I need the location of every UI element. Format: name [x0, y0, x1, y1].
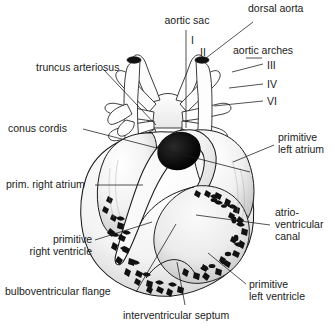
label-arch-2: II [200, 46, 206, 58]
aortic-arch-lumen-left [127, 57, 141, 63]
leader-arch-4 [229, 84, 263, 88]
label-atrioventricular-canal-line3: canal [275, 231, 300, 243]
label-primitive-right-ventricle-line2: right ventricle [8, 246, 92, 258]
label-primitive-left-ventricle-line1: primitive [249, 279, 288, 291]
label-primitive-left-atrium-line1: primitive [278, 132, 317, 144]
label-truncus-arteriosus: truncus arteriosus [36, 62, 119, 74]
label-atrioventricular-canal-line1: atrio- [275, 207, 299, 219]
label-primitive-left-ventricle-line2: left ventricle [249, 291, 305, 303]
heart-body [81, 126, 254, 297]
label-atrioventricular-canal-line2: ventricular [275, 219, 323, 231]
label-primitive-left-atrium-line2: left atrium [278, 144, 324, 156]
label-interventricular-septum: interventricular septum [123, 310, 229, 322]
label-arch-4: IV [267, 78, 277, 90]
label-aortic-arches: aortic arches [233, 45, 293, 57]
label-dorsal-aorta: dorsal aorta [248, 3, 303, 15]
label-conus-cordis: conus cordis [8, 123, 67, 135]
leader-arch-3 [232, 64, 263, 72]
label-aortic-sac: aortic sac [156, 15, 218, 27]
label-primitive-right-ventricle-line1: primitive [8, 234, 92, 246]
label-bulboventricular-flange: bulboventricular flange [5, 286, 111, 298]
label-arch-1: I [191, 34, 194, 46]
label-prim-right-atrium: prim. right atrium [6, 179, 85, 191]
label-arch-3: III [267, 59, 276, 71]
heart-development-diagram: aortic sac dorsal aorta aortic arches I … [0, 0, 335, 326]
label-arch-6: VI [267, 95, 277, 107]
